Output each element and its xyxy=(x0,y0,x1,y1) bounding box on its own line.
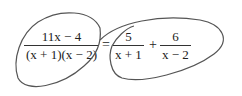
left-loop-icon xyxy=(16,13,100,87)
right-loop-icon xyxy=(100,18,223,80)
annotation-loops xyxy=(0,0,242,96)
